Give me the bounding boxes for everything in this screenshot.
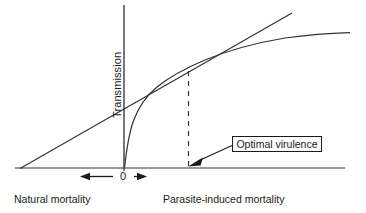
natural-mortality-label: Natural mortality [14, 194, 90, 205]
optimal-virulence-callout-label: Optimal virulence [233, 139, 320, 150]
plot-canvas [0, 0, 366, 213]
y-axis-title: Transmission [112, 52, 123, 118]
origin-label: 0 [120, 171, 126, 182]
parasite-induced-mortality-label: Parasite-induced mortality [163, 194, 284, 205]
callout-leader-line [198, 146, 232, 162]
transmission-virulence-tradeoff-figure: Transmission 0 Natural mortality Parasit… [0, 0, 366, 213]
zero-range-arrows [80, 173, 147, 180]
callout-arrowhead-icon [188, 158, 203, 167]
optimal-virulence-callout: Optimal virulence [232, 136, 322, 152]
